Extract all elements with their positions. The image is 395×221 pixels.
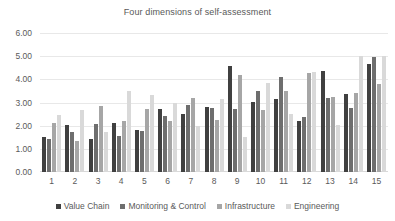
bar[interactable] [112, 123, 116, 172]
bar[interactable] [243, 137, 247, 172]
bar[interactable] [233, 109, 237, 172]
bar[interactable] [336, 125, 340, 172]
bar[interactable] [47, 139, 51, 172]
chart-legend: Value ChainMonitoring & ControlInfrastru… [0, 198, 395, 214]
bar[interactable] [302, 117, 306, 172]
legend-item[interactable]: Infrastructure [217, 201, 275, 211]
bar[interactable] [274, 99, 278, 172]
legend-item[interactable]: Engineering [286, 201, 339, 211]
legend-swatch-icon [286, 204, 291, 209]
bar[interactable] [289, 114, 293, 172]
bar[interactable] [65, 125, 69, 172]
bar-group [63, 33, 86, 172]
x-axis-tick-label: 1 [40, 174, 63, 188]
chart-title: Four dimensions of self-assessment [0, 7, 395, 17]
bar-group [365, 33, 388, 172]
bar[interactable] [238, 75, 242, 172]
bar[interactable] [215, 120, 219, 172]
bar[interactable] [372, 57, 376, 172]
y-axis-tick-label: 4.00 [0, 74, 32, 84]
legend-swatch-icon [217, 204, 222, 209]
bar-group [110, 33, 133, 172]
bar[interactable] [382, 56, 386, 172]
bar[interactable] [117, 136, 121, 172]
bar[interactable] [150, 95, 154, 172]
bar[interactable] [321, 71, 325, 172]
bar[interactable] [210, 108, 214, 172]
bar[interactable] [256, 91, 260, 172]
legend-label: Value Chain [64, 201, 110, 211]
bar[interactable] [42, 137, 46, 172]
bar[interactable] [70, 132, 74, 172]
bar[interactable] [307, 73, 311, 172]
bar[interactable] [261, 110, 265, 172]
bar[interactable] [94, 124, 98, 172]
legend-item[interactable]: Value Chain [56, 201, 110, 211]
bar[interactable] [75, 141, 79, 172]
bar[interactable] [284, 91, 288, 172]
x-axis-tick-label: 11 [272, 174, 295, 188]
bar[interactable] [220, 99, 224, 172]
bar[interactable] [251, 102, 255, 172]
bar[interactable] [122, 121, 126, 172]
y-axis-tick-label: 0.00 [0, 167, 32, 177]
bar[interactable] [104, 132, 108, 172]
bar[interactable] [173, 103, 177, 172]
x-axis-tick-label: 10 [249, 174, 272, 188]
bar-group [156, 33, 179, 172]
bar[interactable] [57, 115, 61, 172]
bar[interactable] [145, 109, 149, 172]
legend-item[interactable]: Monitoring & Control [120, 201, 205, 211]
bar[interactable] [140, 131, 144, 172]
bar[interactable] [181, 114, 185, 172]
bar[interactable] [312, 72, 316, 172]
bar[interactable] [266, 83, 270, 172]
bar[interactable] [326, 98, 330, 172]
bar[interactable] [297, 121, 301, 172]
bar[interactable] [186, 105, 190, 172]
y-axis: 6.005.004.003.002.001.000.00 [0, 33, 36, 172]
bar-group [318, 33, 341, 172]
y-axis-tick-label: 2.00 [0, 121, 32, 131]
legend-swatch-icon [120, 204, 125, 209]
bar[interactable] [367, 64, 371, 172]
bar[interactable] [99, 106, 103, 172]
bar[interactable] [196, 126, 200, 172]
bar[interactable] [359, 56, 363, 172]
bar[interactable] [228, 66, 232, 172]
x-axis-tick-label: 6 [156, 174, 179, 188]
bar[interactable] [354, 93, 358, 172]
bar-chart: Four dimensions of self-assessment 6.005… [0, 0, 395, 221]
bar[interactable] [191, 98, 195, 172]
plot-area [40, 33, 388, 172]
x-axis-tick-label: 5 [133, 174, 156, 188]
bar[interactable] [89, 139, 93, 172]
x-axis-tick-label: 9 [226, 174, 249, 188]
x-axis-tick-label: 15 [365, 174, 388, 188]
bar-group [342, 33, 365, 172]
bar[interactable] [163, 116, 167, 172]
x-axis-tick-label: 2 [63, 174, 86, 188]
bar-group [249, 33, 272, 172]
bar-group [179, 33, 202, 172]
bar[interactable] [135, 130, 139, 172]
x-axis-tick-label: 13 [318, 174, 341, 188]
bar[interactable] [205, 107, 209, 172]
x-axis-tick-label: 14 [342, 174, 365, 188]
y-axis-tick-label: 5.00 [0, 51, 32, 61]
x-axis-tick-label: 7 [179, 174, 202, 188]
bar[interactable] [52, 123, 56, 172]
bar[interactable] [377, 84, 381, 172]
bar[interactable] [349, 108, 353, 172]
x-axis-tick-label: 12 [295, 174, 318, 188]
bar[interactable] [80, 110, 84, 172]
bar[interactable] [158, 109, 162, 172]
bar-group [295, 33, 318, 172]
bar[interactable] [344, 94, 348, 172]
bar[interactable] [127, 91, 131, 172]
bar[interactable] [279, 77, 283, 172]
bar[interactable] [331, 97, 335, 172]
bar-groups [40, 33, 388, 172]
x-axis-tick-label: 4 [110, 174, 133, 188]
bar[interactable] [168, 121, 172, 172]
